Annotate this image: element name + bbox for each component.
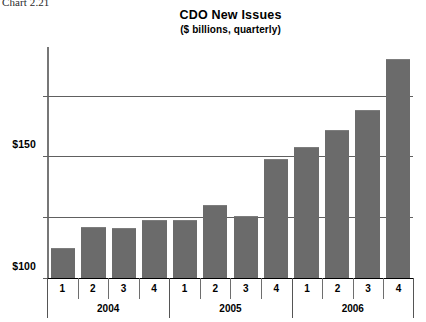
bar <box>203 205 227 278</box>
page-title: CDO New Issues <box>48 8 413 23</box>
chart-caption: Chart 2.21 <box>2 0 49 8</box>
chart-subtitle: ($ billions, quarterly) <box>48 23 413 36</box>
quarter-label: 1 <box>292 278 323 299</box>
quarter-label: 2 <box>200 278 231 299</box>
quarter-label: 3 <box>230 278 261 299</box>
bar <box>355 110 379 278</box>
year-label: 2004 <box>47 299 169 318</box>
quarter-label: 1 <box>169 278 200 299</box>
bar <box>234 216 258 278</box>
bar <box>51 248 75 278</box>
quarter-label-row: 123412341234 <box>47 278 414 299</box>
bar <box>112 228 136 278</box>
quarter-label: 3 <box>108 278 139 299</box>
bar <box>386 59 410 278</box>
y-axis-spine <box>47 47 49 279</box>
y-axis-tick: $150 <box>43 96 48 97</box>
bar <box>325 130 349 278</box>
quarter-label: 2 <box>78 278 109 299</box>
x-axis-label-table: 123412341234 200420052006 <box>47 278 414 318</box>
y-axis-tick: $50 <box>43 217 48 218</box>
x-axis-right-edge <box>413 278 414 318</box>
quarter-label: 2 <box>322 278 353 299</box>
chart-title-block: CDO New Issues ($ billions, quarterly) <box>48 8 413 36</box>
year-label: 2006 <box>292 299 414 318</box>
quarter-label: 1 <box>47 278 78 299</box>
bar <box>142 220 166 278</box>
y-axis-tick: $100 <box>43 156 48 157</box>
bar <box>81 227 105 278</box>
y-axis-tick-label: $100 <box>12 260 36 272</box>
y-axis-tick-label: $150 <box>12 138 36 150</box>
bar <box>173 220 197 278</box>
year-label-row: 200420052006 <box>47 299 414 318</box>
bar <box>264 159 288 278</box>
bar <box>294 147 318 278</box>
gridline <box>48 96 413 97</box>
quarter-label: 3 <box>353 278 384 299</box>
plot-area: $0$50$100$150 <box>48 47 413 278</box>
quarter-label: 4 <box>383 278 414 299</box>
quarter-label: 4 <box>261 278 292 299</box>
quarter-label: 4 <box>139 278 170 299</box>
year-label: 2005 <box>169 299 291 318</box>
